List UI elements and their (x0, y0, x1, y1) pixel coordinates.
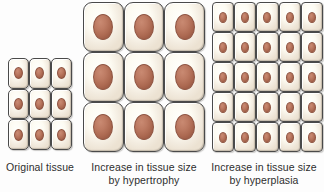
tissue-cell (279, 92, 301, 122)
cell-nucleus (219, 72, 227, 83)
tissue-cell (301, 32, 323, 62)
tissue-cell (83, 102, 124, 152)
cell-nucleus (134, 64, 154, 90)
cell-nucleus (93, 64, 113, 90)
cell-nucleus (263, 12, 271, 23)
cell-nucleus (35, 129, 44, 141)
cell-nucleus (241, 102, 249, 113)
cell-nucleus (308, 132, 316, 143)
caption-hyperplasia: Increase in tissue size by hyperplasia (204, 161, 324, 187)
cell-nucleus (241, 132, 249, 143)
tissue-cell (8, 119, 29, 150)
tissue-cell (212, 32, 234, 62)
tissue-cell (256, 122, 278, 152)
tissue-cell (8, 89, 29, 120)
tissue-cell (124, 102, 165, 152)
tissue-cell (164, 52, 205, 102)
cell-nucleus (35, 98, 44, 110)
cell-grid-hyperplasia (212, 2, 323, 152)
tissue-cell (83, 52, 124, 102)
tissue-cell (83, 2, 124, 52)
tissue-cell (256, 92, 278, 122)
tissue-cell (256, 32, 278, 62)
cell-nucleus (219, 102, 227, 113)
tissue-cell (212, 2, 234, 32)
cell-nucleus (57, 98, 66, 110)
cell-nucleus (286, 12, 294, 23)
tissue-cell (279, 2, 301, 32)
cell-nucleus (35, 67, 44, 79)
cell-nucleus (134, 14, 154, 40)
cell-nucleus (57, 67, 66, 79)
tissue-cell (256, 2, 278, 32)
tissue-cell (234, 2, 256, 32)
tissue-cell (51, 119, 72, 150)
tissue-cell (212, 62, 234, 92)
cell-nucleus (175, 114, 195, 140)
cell-nucleus (241, 72, 249, 83)
caption-line: by hypertrophy (78, 174, 210, 187)
cell-nucleus (308, 102, 316, 113)
cell-nucleus (263, 72, 271, 83)
caption-line: by hyperplasia (204, 174, 324, 187)
cell-nucleus (175, 64, 195, 90)
tissue-cell (301, 122, 323, 152)
caption-line: Increase in tissue size (78, 161, 210, 174)
caption-original-tissue: Original tissue (0, 161, 80, 174)
tissue-cell (212, 122, 234, 152)
cell-nucleus (263, 132, 271, 143)
cell-nucleus (286, 42, 294, 53)
cell-nucleus (286, 72, 294, 83)
cell-nucleus (286, 102, 294, 113)
tissue-cell (124, 52, 165, 102)
cell-nucleus (93, 14, 113, 40)
caption-line: Increase in tissue size (204, 161, 324, 174)
tissue-cell (279, 62, 301, 92)
tissue-cell (279, 32, 301, 62)
tissue-cell (124, 2, 165, 52)
cell-nucleus (134, 114, 154, 140)
tissue-cell (256, 62, 278, 92)
tissue-cell (279, 122, 301, 152)
tissue-cell (29, 58, 50, 89)
tissue-cell (212, 92, 234, 122)
tissue-cell (234, 122, 256, 152)
cell-nucleus (286, 132, 294, 143)
tissue-cell (234, 62, 256, 92)
tissue-cell (29, 119, 50, 150)
cell-nucleus (308, 72, 316, 83)
cell-nucleus (14, 98, 23, 110)
tissue-cell (51, 58, 72, 89)
cell-nucleus (57, 129, 66, 141)
tissue-cell (301, 2, 323, 32)
tissue-cell (301, 92, 323, 122)
caption-hypertrophy: Increase in tissue size by hypertrophy (78, 161, 210, 187)
cell-nucleus (308, 42, 316, 53)
cell-nucleus (219, 42, 227, 53)
cell-nucleus (175, 14, 195, 40)
tissue-cell (234, 32, 256, 62)
tissue-cell (234, 92, 256, 122)
cell-nucleus (219, 12, 227, 23)
cell-nucleus (263, 102, 271, 113)
cell-nucleus (14, 67, 23, 79)
cell-nucleus (308, 12, 316, 23)
tissue-cell (29, 89, 50, 120)
cell-nucleus (241, 42, 249, 53)
cell-grid-hypertrophy (83, 2, 205, 152)
tissue-growth-diagram: Original tissue Increase in tissue size … (0, 0, 324, 192)
cell-grid-original-tissue (8, 58, 72, 150)
tissue-cell (301, 62, 323, 92)
tissue-cell (51, 89, 72, 120)
cell-nucleus (14, 129, 23, 141)
tissue-cell (164, 102, 205, 152)
cell-nucleus (93, 114, 113, 140)
tissue-cell (164, 2, 205, 52)
tissue-cell (8, 58, 29, 89)
cell-nucleus (241, 12, 249, 23)
cell-nucleus (219, 132, 227, 143)
cell-nucleus (263, 42, 271, 53)
caption-line: Original tissue (0, 161, 80, 174)
